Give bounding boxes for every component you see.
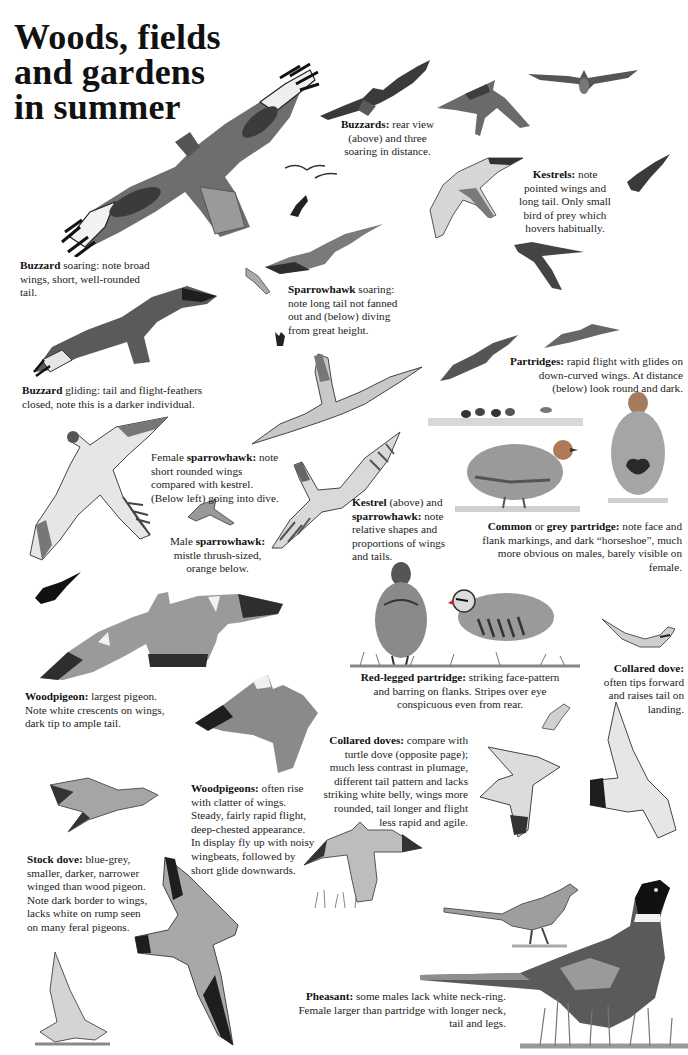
caption-woodpigeon: Woodpigeon: largest pigeon. Note white c… [25, 690, 175, 731]
caption-collared-doves: Collared doves: compare with turtle dove… [318, 734, 468, 829]
grey-partridge-front-illustration [608, 388, 668, 503]
grey-partridge-side-illustration [455, 432, 580, 512]
collared-dove-flying-1-illustration [478, 745, 568, 840]
collared-dove-tail-illustration [588, 700, 678, 840]
kestrel-diving-illustration [428, 150, 528, 240]
grass-tuft-illustration [310, 888, 360, 910]
kestrel-hovering-illustration [528, 68, 640, 98]
caption-pheasant: Pheasant: some males lack white neck-rin… [298, 990, 506, 1031]
kestrel-diving-2-illustration [512, 240, 587, 295]
title-line-1: Woods, fields [14, 20, 221, 55]
woodpigeon-gliding-illustration [48, 750, 160, 835]
caption-female-sparrowhawk: Female sparrowhawk: note short rounded w… [151, 451, 286, 505]
caption-kestrels: Kestrels: note pointed wings and long ta… [515, 168, 615, 236]
caption-grey-partridge: Common or grey partridge: note face and … [470, 520, 682, 574]
sparrowhawk-soaring-illustration [265, 222, 385, 277]
caption-buzzard-gliding: Buzzard gliding: tail and flight-feather… [22, 384, 222, 411]
kestrel-flying-illustration [435, 78, 535, 138]
sparrowhawk-small-illustration [244, 262, 274, 296]
caption-sparrowhawk-soaring: Sparrowhawk soaring: note long tail not … [288, 283, 403, 337]
caption-collared-dove: Collared dove: often tips forward and ra… [592, 662, 684, 716]
partridges-distant-illustration [428, 400, 583, 428]
woodpigeon-rising-illustration [193, 673, 323, 778]
grass-strip-illustration [350, 650, 580, 668]
caption-male-sparrowhawk: Male sparrowhawk: mistle thrush-sized, o… [160, 535, 275, 576]
stock-dove-landing-illustration [35, 950, 110, 1048]
caption-partridges: Partridges: rapid flight with glides on … [505, 355, 683, 396]
caption-buzzard-soaring: Buzzard soaring: note broad wings, short… [20, 259, 155, 300]
caption-kestrel-sparrowhawk: Kestrel (above) and sparrowhawk: note re… [352, 496, 457, 564]
caption-red-legged-partridge: Red-legged partridge: striking face-patt… [360, 671, 560, 712]
buzzard-rear-view-illustration [318, 58, 433, 123]
red-legged-partridge-side-illustration [448, 585, 568, 655]
sparrowhawk-diving-illustration [273, 330, 287, 348]
caption-stock-dove: Stock dove: blue-grey, smaller, darker, … [27, 853, 152, 935]
collared-dove-perched-illustration [600, 615, 678, 651]
buzzard-distant-1-illustration [285, 160, 340, 182]
buzzard-distant-3-illustration [288, 193, 310, 219]
woodpigeon-large-illustration [38, 582, 286, 682]
partridge-flying-2-illustration [542, 322, 622, 352]
caption-woodpigeons: Woodpigeons: often rise with clatter of … [191, 782, 316, 877]
kestrel-small-right-illustration [625, 152, 673, 194]
caption-buzzards-rear: Buzzards: rear view (above) and three so… [335, 118, 440, 159]
